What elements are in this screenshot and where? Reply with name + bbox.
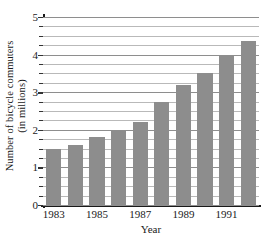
bar bbox=[68, 145, 83, 205]
bar-chart-figure: Number of bicycle commuters (in millions… bbox=[0, 0, 263, 240]
bar bbox=[89, 137, 104, 205]
bar bbox=[133, 122, 148, 205]
x-tick-label: 1983 bbox=[43, 208, 65, 221]
y-axis-tick-labels: 012345 bbox=[18, 0, 38, 240]
y-tick-label: 1 bbox=[24, 162, 38, 173]
x-tick-label: 1991 bbox=[216, 208, 238, 221]
y-tick-label: 0 bbox=[24, 200, 38, 211]
bar bbox=[111, 130, 126, 205]
y-tick-label: 5 bbox=[24, 12, 38, 23]
bar bbox=[219, 55, 234, 205]
y-tickmark bbox=[38, 205, 43, 206]
y-tick-label: 4 bbox=[24, 49, 38, 60]
bar-series bbox=[43, 17, 259, 205]
gridline-major bbox=[43, 205, 259, 206]
y-axis-title-line1: Number of bicycle commuters bbox=[4, 41, 15, 172]
y-tick-label: 3 bbox=[24, 87, 38, 98]
x-axis-tick-labels: 19831985198719891991 bbox=[43, 208, 259, 224]
x-axis-title: Year bbox=[43, 223, 259, 236]
bar bbox=[197, 73, 212, 205]
x-tick-label: 1985 bbox=[86, 208, 108, 221]
plot-area bbox=[43, 17, 259, 205]
bar bbox=[241, 41, 256, 205]
x-tick-label: 1987 bbox=[129, 208, 151, 221]
bar bbox=[176, 85, 191, 205]
x-tick-label: 1989 bbox=[172, 208, 194, 221]
bar bbox=[154, 102, 169, 205]
bar bbox=[46, 149, 61, 205]
y-tick-label: 2 bbox=[24, 124, 38, 135]
